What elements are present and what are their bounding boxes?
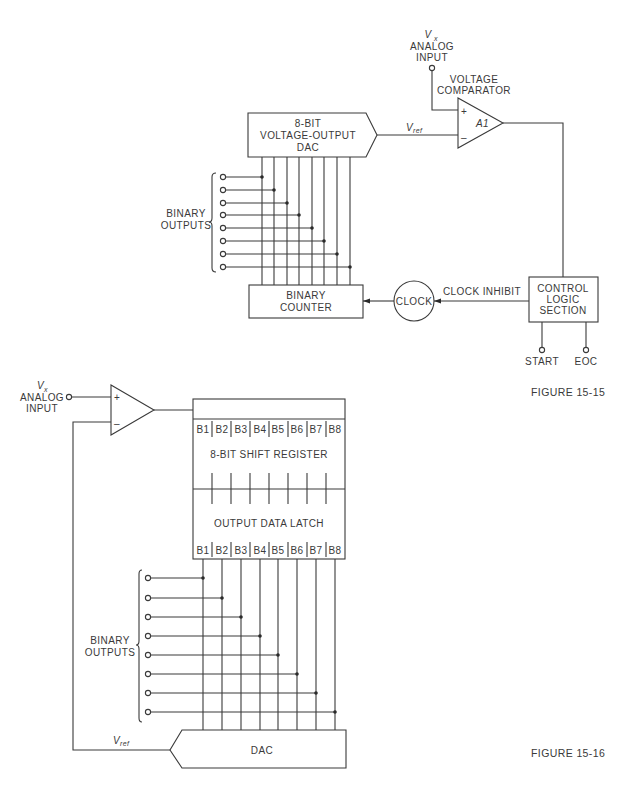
output-terminal[interactable] bbox=[220, 187, 225, 192]
vx-symbol: V bbox=[424, 29, 432, 40]
output-terminal[interactable] bbox=[220, 174, 225, 179]
figure-caption-15-15: FIGURE 15-15 bbox=[531, 386, 605, 398]
eoc-terminal[interactable] bbox=[583, 347, 588, 352]
brace-icon bbox=[209, 173, 216, 272]
output-terminal[interactable] bbox=[220, 238, 225, 243]
control-label-1: CONTROL bbox=[537, 283, 589, 294]
dac-line-1: 8-BIT bbox=[295, 118, 321, 129]
bit-bus-15-16 bbox=[203, 559, 335, 730]
bit-label: B7 bbox=[309, 545, 322, 556]
analog-label-1: ANALOG bbox=[20, 392, 64, 403]
comparator-minus: – bbox=[461, 132, 467, 143]
output-terminal[interactable] bbox=[145, 633, 150, 638]
figure-caption-15-16: FIGURE 15-16 bbox=[531, 747, 605, 759]
start-label: START bbox=[525, 356, 559, 367]
dac-label: DAC bbox=[251, 745, 273, 756]
dac-line-3: DAC bbox=[297, 142, 319, 153]
output-terminal[interactable] bbox=[145, 671, 150, 676]
brace-icon bbox=[136, 570, 142, 722]
bit-label: B6 bbox=[290, 424, 303, 435]
vref-subscript: ref bbox=[413, 127, 423, 134]
clock: CLOCK bbox=[363, 281, 434, 321]
output-terminal[interactable] bbox=[145, 690, 150, 695]
analog-label-2: INPUT bbox=[416, 52, 448, 63]
comparator-title-1: VOLTAGE bbox=[450, 74, 499, 85]
bit-label: B6 bbox=[290, 545, 303, 556]
bit-bus-15-15 bbox=[262, 157, 350, 285]
output-terminal[interactable] bbox=[145, 595, 150, 600]
clock-inhibit: CLOCK INHIBIT bbox=[434, 286, 529, 304]
counter-label-2: COUNTER bbox=[280, 302, 332, 313]
voltage-output-dac: 8-BIT VOLTAGE-OUTPUT DAC V ref bbox=[248, 113, 458, 157]
comparator-title-2: COMPARATOR bbox=[437, 85, 511, 96]
output-terminal[interactable] bbox=[145, 575, 150, 580]
bit-label: B1 bbox=[196, 424, 209, 435]
counter-label-1: BINARY bbox=[286, 290, 325, 301]
analog-label-1: ANALOG bbox=[410, 41, 454, 52]
clock-label: CLOCK bbox=[396, 296, 432, 307]
dac-15-16: DAC V ref bbox=[113, 730, 346, 768]
binary-outputs-label-1: BINARY bbox=[90, 635, 129, 646]
start-terminal[interactable] bbox=[539, 347, 544, 352]
comparator-15-16: + – bbox=[73, 385, 193, 750]
vref-subscript: ref bbox=[120, 740, 130, 747]
output-terminal[interactable] bbox=[145, 709, 150, 714]
binary-outputs-label-2: OUTPUTS bbox=[161, 220, 212, 231]
arrow-left-icon bbox=[434, 299, 441, 304]
output-terminal[interactable] bbox=[220, 200, 225, 205]
control-label-3: SECTION bbox=[539, 305, 586, 316]
bit-label: B4 bbox=[253, 545, 266, 556]
output-terminal[interactable] bbox=[145, 652, 150, 657]
bit-label: B8 bbox=[328, 424, 341, 435]
analog-input-15-16: V x ANALOG INPUT bbox=[20, 380, 111, 414]
shift-register-label: 8-BIT SHIFT REGISTER bbox=[210, 449, 328, 460]
diagram-canvas: V x ANALOG INPUT VOLTAGE COMPARATOR + – … bbox=[0, 0, 627, 791]
binary-counter: BINARY COUNTER bbox=[249, 285, 363, 318]
clock-inhibit-label: CLOCK INHIBIT bbox=[443, 286, 521, 297]
voltage-comparator: VOLTAGE COMPARATOR + – A1 bbox=[437, 74, 563, 277]
bit-label: B3 bbox=[234, 424, 247, 435]
eoc-label: EOC bbox=[575, 356, 598, 367]
binary-outputs-label-2: OUTPUTS bbox=[85, 647, 136, 658]
feedback-wire bbox=[73, 422, 170, 750]
output-terminal[interactable] bbox=[145, 614, 150, 619]
arrow-left-icon bbox=[363, 299, 370, 304]
bit-label: B1 bbox=[196, 545, 209, 556]
bit-label: B8 bbox=[328, 545, 341, 556]
comparator-name: A1 bbox=[475, 118, 489, 129]
binary-outputs-label-1: BINARY bbox=[166, 208, 205, 219]
comparator-plus: + bbox=[114, 392, 120, 403]
bit-label: B2 bbox=[215, 545, 228, 556]
dac-line-2: VOLTAGE-OUTPUT bbox=[260, 130, 356, 141]
output-terminal[interactable] bbox=[220, 251, 225, 256]
analog-input-terminal[interactable] bbox=[429, 65, 434, 70]
control-label-2: LOGIC bbox=[546, 294, 579, 305]
binary-outputs-15-16: BINARY OUTPUTS bbox=[85, 570, 337, 722]
bit-label: B5 bbox=[271, 545, 284, 556]
control-logic-section: CONTROL LOGIC SECTION START EOC bbox=[525, 277, 598, 367]
analog-input-terminal[interactable] bbox=[66, 394, 71, 399]
bit-label: B4 bbox=[253, 424, 266, 435]
bit-label: B2 bbox=[215, 424, 228, 435]
output-terminal[interactable] bbox=[220, 225, 225, 230]
figure-15-16: V x ANALOG INPUT + – bbox=[20, 380, 605, 768]
bit-label: B3 bbox=[234, 545, 247, 556]
output-terminal[interactable] bbox=[220, 212, 225, 217]
comparator-plus: + bbox=[461, 106, 467, 117]
output-terminal[interactable] bbox=[220, 264, 225, 269]
binary-outputs-15-15: BINARY OUTPUTS bbox=[161, 173, 352, 272]
latch-label: OUTPUT DATA LATCH bbox=[214, 518, 324, 529]
comparator-output-wire bbox=[503, 123, 563, 277]
comparator-minus: – bbox=[114, 418, 120, 429]
analog-input-15-15: V x ANALOG INPUT bbox=[410, 29, 458, 110]
analog-label-2: INPUT bbox=[26, 403, 58, 414]
bit-label: B5 bbox=[271, 424, 284, 435]
figure-15-15: V x ANALOG INPUT VOLTAGE COMPARATOR + – … bbox=[161, 29, 606, 398]
bit-label: B7 bbox=[309, 424, 322, 435]
shift-register-latch: B1 B2 B3 B4 B5 B6 B7 B8 8-BIT SHIFT REGI… bbox=[193, 399, 345, 559]
